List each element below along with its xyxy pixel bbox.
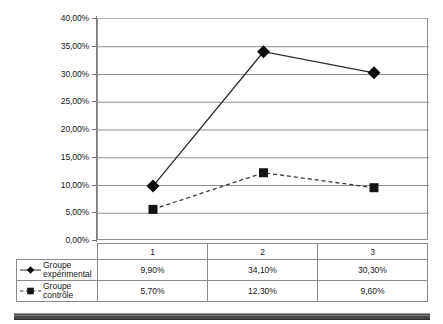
y-tick-label: 10,00%: [61, 180, 89, 190]
value-cell: 9,60%: [318, 281, 428, 302]
square-marker-icon: [20, 287, 41, 296]
y-tick-mark: [92, 240, 96, 241]
y-tick-label: 5,00%: [65, 207, 89, 217]
y-tick-mark: [92, 18, 96, 19]
legend-label-line2: contrôle: [43, 291, 97, 301]
value-cell: 12,30%: [208, 281, 318, 302]
data-table: 1 2 3 Groupe expérimental 9,90% 34,10: [16, 243, 428, 302]
line-chart: 40,00% 35,00% 30,00% 25,00% 20,00% 15,00…: [0, 0, 443, 252]
chart-page: 40,00% 35,00% 30,00% 25,00% 20,00% 15,00…: [0, 0, 443, 324]
value-cell: 30,30%: [318, 260, 428, 281]
table-row: Groupe expérimental 9,90% 34,10% 30,30%: [17, 260, 428, 281]
y-tick-label: 15,00%: [61, 152, 89, 162]
legend-label-line2: expérimental: [43, 270, 97, 280]
y-tick-mark: [92, 101, 96, 102]
y-tick-label: 40,00%: [61, 13, 89, 23]
y-tick-mark: [92, 46, 96, 47]
category-header-1: 1: [98, 244, 208, 260]
y-tick-label: 20,00%: [61, 124, 89, 134]
value-cell: 9,90%: [98, 260, 208, 281]
plot-svg: [98, 19, 429, 241]
y-tick-mark: [92, 185, 96, 186]
value-cell: 5,70%: [98, 281, 208, 302]
y-tick-mark: [92, 157, 96, 158]
y-tick-label: 25,00%: [61, 96, 89, 106]
y-tick-label: 35,00%: [61, 41, 89, 51]
value-cell: 34,10%: [208, 260, 318, 281]
table-corner-cell: [17, 244, 98, 260]
bottom-divider-highlight: [14, 315, 430, 316]
y-tick-mark: [92, 74, 96, 75]
y-axis-labels: 40,00% 35,00% 30,00% 25,00% 20,00% 15,00…: [0, 0, 93, 252]
y-tick-label: 30,00%: [61, 69, 89, 79]
plot-area: [97, 18, 428, 240]
series-groupe-controle: [149, 168, 379, 214]
legend-groupe-controle: Groupe contrôle: [17, 281, 98, 302]
y-tick-mark: [92, 212, 96, 213]
table-row: Groupe contrôle 5,70% 12,30% 9,60%: [17, 281, 428, 302]
y-tick-mark: [92, 129, 96, 130]
diamond-marker-icon: [20, 266, 41, 275]
category-header-3: 3: [318, 244, 428, 260]
category-header-2: 2: [208, 244, 318, 260]
table-header-row: 1 2 3: [17, 244, 428, 260]
bottom-divider-bar: [14, 313, 430, 320]
legend-groupe-experimental: Groupe expérimental: [17, 260, 98, 281]
